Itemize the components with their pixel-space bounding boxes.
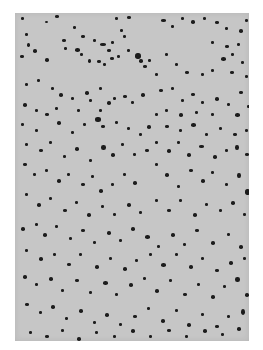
particle-speck	[107, 231, 111, 235]
particle-speck	[35, 223, 38, 226]
particle-speck	[45, 169, 48, 172]
particle-speck	[95, 265, 99, 269]
particle-speck	[239, 245, 243, 249]
particle-speck	[203, 17, 206, 20]
particle-speck	[65, 317, 68, 320]
particle-speck	[225, 183, 228, 186]
particle-speck	[55, 225, 58, 228]
particle-speck	[211, 241, 215, 245]
particle-speck	[231, 53, 234, 56]
particle-speck	[113, 335, 116, 338]
particle-speck	[181, 99, 184, 102]
particle-speck	[95, 331, 98, 334]
particle-speck	[237, 173, 241, 178]
particle-speck	[25, 303, 29, 306]
particle-speck	[81, 229, 85, 232]
particle-speck	[139, 133, 142, 136]
particle-speck	[25, 83, 28, 86]
particle-speck	[110, 57, 114, 60]
particle-speck	[177, 141, 180, 144]
particle-speck	[87, 213, 91, 217]
particle-speck	[211, 171, 214, 174]
particle-speck	[175, 253, 178, 256]
particle-speck	[211, 113, 214, 116]
particle-speck	[39, 149, 43, 152]
particle-speck	[111, 183, 114, 186]
particle-speck	[119, 239, 122, 242]
particle-speck	[109, 257, 112, 260]
particle-speck	[79, 253, 82, 256]
particle-speck	[167, 209, 171, 212]
particle-speck	[80, 53, 83, 56]
particle-speck	[219, 127, 222, 130]
particle-speck	[101, 145, 106, 150]
particle-speck	[29, 331, 32, 334]
particle-speck	[187, 153, 191, 157]
particle-speck	[35, 109, 38, 112]
particle-speck	[205, 133, 208, 136]
particle-speck	[171, 87, 174, 90]
particle-speck	[155, 141, 158, 144]
particle-speck	[215, 97, 219, 101]
particle-speck	[105, 313, 109, 317]
particle-speck	[235, 145, 239, 150]
particle-speck	[199, 145, 204, 148]
particle-speck	[64, 47, 67, 50]
particle-speck	[167, 329, 171, 332]
particle-speck	[147, 125, 151, 129]
particle-speck	[97, 60, 101, 63]
particle-speck	[115, 293, 118, 296]
figure-caption-clipped: · · · · ·· · · ···········	[0, 0, 263, 5]
particle-speck	[75, 147, 79, 151]
particle-speck	[61, 289, 64, 292]
particle-speck	[215, 325, 219, 328]
particle-speck	[155, 163, 158, 166]
particle-speck	[33, 173, 36, 176]
particle-speck	[25, 33, 28, 36]
particle-speck	[71, 97, 74, 100]
particle-speck	[53, 253, 56, 256]
particle-speck	[37, 203, 41, 207]
particle-speck	[157, 245, 160, 248]
particle-speck	[165, 125, 169, 128]
particle-speck	[35, 129, 38, 132]
particle-speck	[51, 87, 54, 90]
particle-speck	[241, 61, 244, 64]
particle-speck	[113, 213, 116, 216]
particle-speck	[221, 57, 226, 61]
particle-speck	[67, 173, 70, 176]
particle-speck	[175, 63, 178, 66]
particle-speck	[37, 79, 40, 82]
particle-speck	[67, 263, 71, 266]
particle-speck	[39, 257, 43, 261]
particle-speck	[215, 269, 219, 272]
particle-speck	[133, 153, 136, 156]
particle-speck	[21, 123, 24, 126]
particle-speck	[75, 279, 79, 282]
particle-speck	[155, 199, 158, 202]
particle-speck	[229, 261, 233, 265]
particle-speck	[195, 111, 198, 114]
particle-speck	[88, 59, 91, 63]
particle-speck	[211, 41, 214, 44]
particle-speck	[185, 335, 188, 338]
particle-speck	[159, 89, 163, 92]
particle-speck	[33, 49, 37, 53]
particle-speck	[201, 101, 204, 104]
particle-speck	[23, 103, 27, 107]
particle-speck	[149, 253, 152, 256]
micrograph-photo	[15, 13, 249, 341]
particle-speck	[25, 193, 28, 196]
particle-speck	[62, 39, 66, 42]
particle-speck	[107, 101, 111, 105]
particle-speck	[89, 291, 92, 294]
particle-speck	[139, 211, 142, 214]
particle-speck	[161, 319, 165, 323]
particle-speck	[189, 265, 193, 269]
particle-speck	[75, 201, 78, 204]
particle-speck	[223, 285, 226, 288]
particle-speck	[99, 87, 102, 90]
particle-speck	[139, 59, 143, 63]
particle-speck	[133, 181, 137, 185]
particle-speck	[181, 17, 184, 20]
